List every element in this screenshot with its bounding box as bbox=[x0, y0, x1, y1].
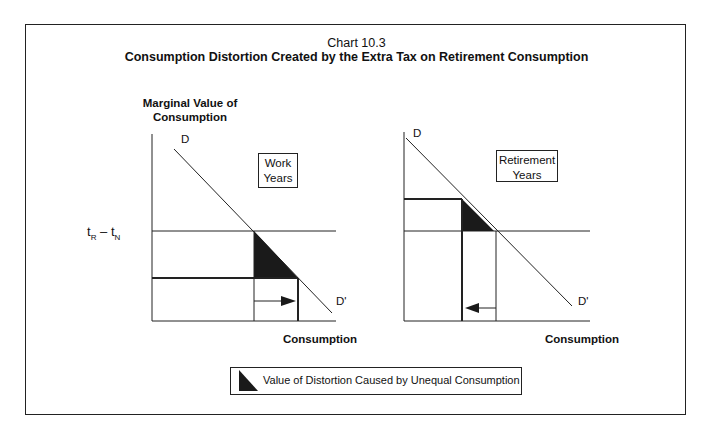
left-x-axis-label: Consumption bbox=[283, 333, 357, 345]
right-demand-label: D bbox=[413, 127, 421, 139]
left-demand-end-label: D' bbox=[336, 295, 347, 307]
right-x-axis-label: Consumption bbox=[545, 333, 619, 345]
work-years-box: WorkYears bbox=[258, 153, 298, 188]
right-demand-end-label: D' bbox=[578, 295, 589, 307]
retirement-years-box: RetirementYears bbox=[496, 150, 558, 182]
legend: Value of Distortion Caused by Unequal Co… bbox=[230, 367, 522, 395]
left-demand-label: D bbox=[181, 133, 189, 145]
work-years-panel bbox=[152, 134, 336, 321]
legend-label: Value of Distortion Caused by Unequal Co… bbox=[263, 374, 520, 386]
